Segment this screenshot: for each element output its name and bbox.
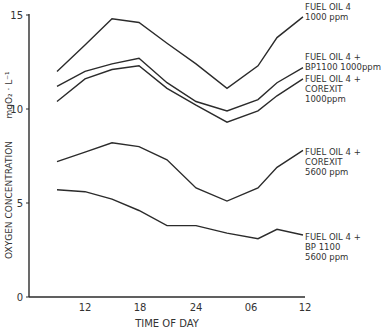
series-label: COREXIT bbox=[305, 84, 343, 94]
series-label: FUEL OIL 4 + bbox=[305, 147, 361, 157]
x-tick-label: 12 bbox=[79, 302, 92, 313]
series-label: FUEL OIL 4 + bbox=[305, 52, 361, 62]
axes: 0510151218240612TIME OF DAYOXYGEN CONCEN… bbox=[4, 10, 311, 329]
x-tick-label: 18 bbox=[134, 302, 147, 313]
x-tick-label: 06 bbox=[245, 302, 258, 313]
line-chart: 0510151218240612TIME OF DAYOXYGEN CONCEN… bbox=[0, 0, 384, 333]
y-axis-title: OXYGEN CONCENTRATION bbox=[4, 141, 14, 259]
x-tick-label: 24 bbox=[190, 302, 203, 313]
series-label: FUEL OIL 4 bbox=[305, 2, 351, 12]
series-labels: FUEL OIL 41000 ppmFUEL OIL 4 +BP1100 100… bbox=[305, 2, 381, 262]
series-line bbox=[57, 190, 303, 239]
y-tick-label: 15 bbox=[10, 10, 23, 21]
series-label: COREXIT bbox=[305, 157, 343, 167]
y-tick-label: 0 bbox=[17, 292, 23, 303]
series-line bbox=[57, 143, 303, 201]
series-line bbox=[57, 58, 303, 111]
series-label: 1000 ppm bbox=[305, 12, 348, 22]
series-label: BP1100 1000ppm bbox=[305, 62, 381, 72]
series-line bbox=[57, 66, 303, 122]
series-label: 5600 ppm bbox=[305, 252, 348, 262]
y-axis-unit: mgO₂ · L⁻¹ bbox=[4, 71, 14, 119]
series-label: 5600 ppm bbox=[305, 167, 348, 177]
y-tick-label: 5 bbox=[17, 198, 23, 209]
series-lines bbox=[57, 17, 303, 239]
series-label: BP 1100 bbox=[305, 242, 340, 252]
series-label: FUEL OIL 4 + bbox=[305, 74, 361, 84]
series-label: 1000ppm bbox=[305, 94, 346, 104]
x-tick-label: 12 bbox=[299, 302, 312, 313]
series-label: FUEL OIL 4 + bbox=[305, 232, 361, 242]
x-axis-title: TIME OF DAY bbox=[134, 318, 200, 329]
series-line bbox=[57, 17, 303, 88]
